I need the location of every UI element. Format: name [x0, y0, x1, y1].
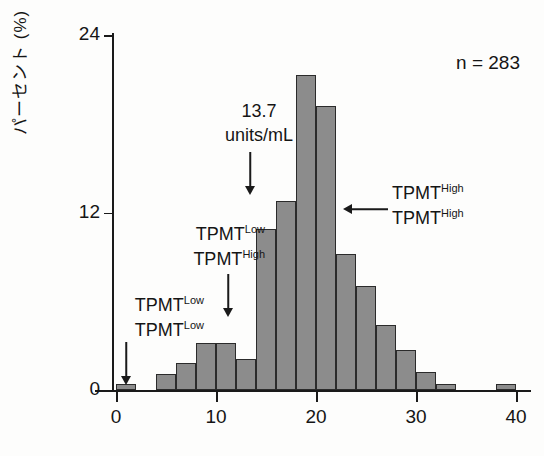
- x-tick-label: 40: [505, 406, 526, 428]
- right-group-line2: TPMTHigh: [392, 206, 522, 231]
- mean-value: 13.7: [222, 100, 296, 124]
- histogram-bar: [336, 254, 356, 390]
- x-tick-label: 30: [405, 406, 426, 428]
- histogram-bar: [216, 343, 236, 390]
- mid-group-line2: TPMTHigh: [165, 247, 265, 272]
- sample-size-label: n = 283: [456, 52, 520, 74]
- mid-group-annotation: TPMTLow TPMTHigh: [165, 222, 265, 272]
- histogram-bar: [416, 372, 436, 390]
- mean-annotation: 13.7 units/mL: [222, 100, 296, 148]
- x-tick-mark: [316, 391, 318, 402]
- left-group-line2: TPMTLow: [104, 318, 204, 343]
- x-tick-mark: [516, 391, 518, 402]
- histogram-bar: [236, 359, 256, 390]
- x-tick-mark: [116, 391, 118, 402]
- right-group-line1: TPMTHigh: [392, 181, 522, 206]
- mid-group-arrow-icon: [222, 274, 234, 316]
- histogram-bar: [496, 384, 516, 390]
- x-axis-line: [95, 390, 531, 392]
- y-axis-title: パーセント (%): [6, 101, 31, 135]
- histogram-bar: [316, 106, 336, 390]
- histogram-bar: [436, 384, 456, 390]
- y-tick-label: 0: [48, 378, 100, 400]
- histogram-bar: [376, 325, 396, 390]
- x-tick-mark: [416, 391, 418, 402]
- histogram-bar: [296, 75, 316, 390]
- y-tick-label: 12: [48, 201, 100, 223]
- histogram-bar: [396, 350, 416, 390]
- left-group-line1: TPMTLow: [104, 293, 204, 318]
- histogram-bar: [156, 374, 176, 390]
- histogram-bar: [356, 286, 376, 390]
- y-tick-mark: [104, 213, 112, 215]
- left-group-arrow-icon: [120, 342, 132, 384]
- histogram-figure: パーセント (%) 24120 010203040 n = 283 13.7 u…: [0, 0, 544, 456]
- mean-arrow-icon: [244, 152, 256, 194]
- histogram-bar: [176, 363, 196, 390]
- x-tick-label: 0: [111, 406, 122, 428]
- y-tick-mark: [104, 35, 112, 37]
- mean-units: units/mL: [222, 124, 296, 148]
- y-tick-label: 24: [48, 23, 100, 45]
- y-tick-mark: [104, 390, 112, 392]
- x-tick-mark: [216, 391, 218, 402]
- mid-group-line1: TPMTLow: [165, 222, 265, 247]
- histogram-bar: [196, 343, 216, 390]
- left-group-annotation: TPMTLow TPMTLow: [104, 293, 204, 343]
- right-group-arrow-icon: [344, 203, 388, 215]
- right-group-annotation: TPMTHigh TPMTHigh: [392, 181, 522, 231]
- histogram-bar: [276, 201, 296, 390]
- x-tick-label: 10: [205, 406, 226, 428]
- x-tick-label: 20: [305, 406, 326, 428]
